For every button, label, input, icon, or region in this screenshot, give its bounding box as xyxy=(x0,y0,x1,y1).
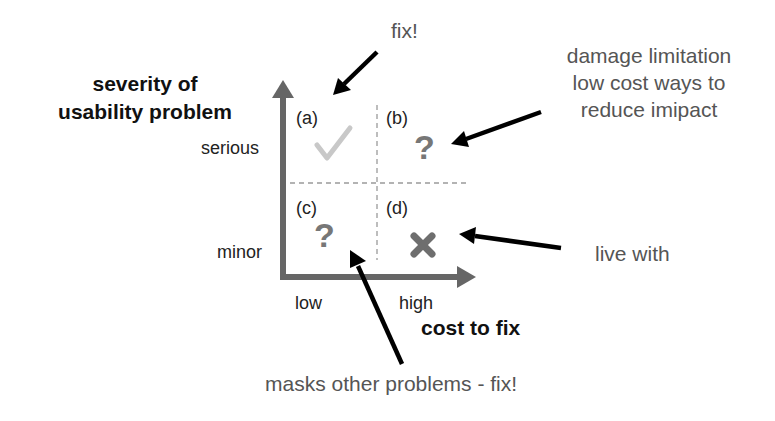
y-axis-title: severity of usability problem xyxy=(40,70,250,126)
arrow-fix-to-a xyxy=(333,52,377,95)
quadrant-b-label: (b) xyxy=(386,108,408,129)
arrow-live-to-d xyxy=(459,227,561,248)
annotation-live-with: live with xyxy=(595,240,670,267)
x-axis-title: cost to fix xyxy=(421,314,520,342)
annotation-fix: fix! xyxy=(391,17,418,44)
y-tick-serious: serious xyxy=(201,138,259,159)
cross-icon xyxy=(414,236,432,254)
x-tick-low: low xyxy=(295,293,322,314)
quadrant-a-label: (a) xyxy=(296,108,318,129)
annotation-damage-line2: low cost ways to xyxy=(545,69,753,96)
x-tick-high: high xyxy=(399,293,433,314)
y-axis-title-line2: usability problem xyxy=(40,98,250,126)
quadrant-d-label: (d) xyxy=(386,198,408,219)
y-axis-arrow xyxy=(272,80,294,277)
check-icon xyxy=(317,128,350,158)
question-mark-icon-b: ? xyxy=(414,128,435,167)
y-axis-title-line1: severity of xyxy=(40,70,250,98)
question-mark-icon-c: ? xyxy=(314,216,335,255)
arrow-damage-to-b xyxy=(451,112,541,147)
annotation-damage-line1: damage limitation xyxy=(545,42,753,69)
annotation-damage-limitation: damage limitation low cost ways to reduc… xyxy=(545,42,753,123)
x-axis-arrow xyxy=(280,266,476,288)
arrow-masks-to-c xyxy=(350,250,402,364)
y-tick-minor: minor xyxy=(217,242,262,263)
annotation-damage-line3: reduce imipact xyxy=(545,96,753,123)
annotation-masks-other-problems: masks other problems - fix! xyxy=(265,370,517,397)
